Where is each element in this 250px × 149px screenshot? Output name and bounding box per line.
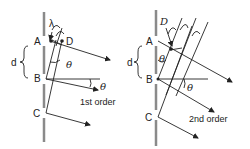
ray-from-a	[158, 41, 232, 82]
panel-second-order: A B C D d θ θ 2nd order	[127, 10, 232, 146]
label-angle-theta-top: θ	[66, 59, 72, 70]
label-angle-theta-bottom: θ	[187, 82, 193, 93]
label-wavelength: λ	[49, 18, 54, 29]
label-slit-a: A	[146, 36, 153, 47]
label-point-d: D	[66, 36, 73, 47]
label-spacing-d: d	[11, 57, 17, 68]
label-order: 2nd order	[189, 114, 228, 124]
label-slit-a: A	[34, 36, 41, 47]
diffraction-diagram: A B C D d λ θ θ 1st order	[0, 0, 250, 149]
label-point-d: D	[159, 16, 168, 27]
label-slit-c: C	[145, 112, 152, 123]
label-angle-theta-bottom: θ	[100, 81, 106, 92]
label-slit-b: B	[146, 74, 153, 85]
label-order: 1st order	[80, 97, 116, 107]
ray-from-c	[46, 113, 90, 125]
label-spacing-d: d	[127, 57, 133, 68]
label-slit-b: B	[34, 73, 41, 84]
label-slit-c: C	[33, 108, 40, 119]
wavefront-c	[46, 40, 62, 113]
panel-first-order: A B C D d λ θ θ 1st order	[11, 12, 116, 142]
label-angle-theta-top: θ	[159, 53, 165, 64]
